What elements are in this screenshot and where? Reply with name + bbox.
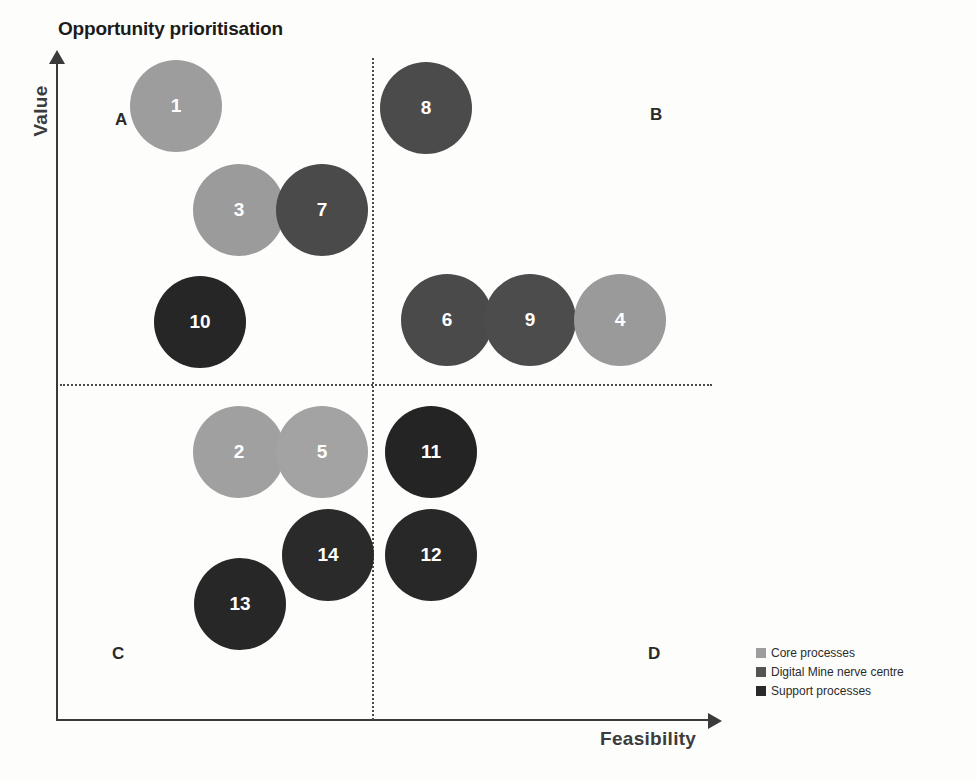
legend-label: Core processes xyxy=(771,646,855,660)
bubble-9[interactable]: 9 xyxy=(484,274,576,366)
quadrant-label-b: B xyxy=(650,105,662,125)
x-axis-label: Feasibility xyxy=(600,728,696,750)
bubble-13[interactable]: 13 xyxy=(194,558,286,650)
x-axis-line xyxy=(56,719,712,721)
x-axis-arrow-icon xyxy=(708,713,722,729)
bubble-7[interactable]: 7 xyxy=(276,164,368,256)
bubble-8[interactable]: 8 xyxy=(380,62,472,154)
quadrant-divider-horizontal xyxy=(60,384,712,386)
quadrant-label-a: A xyxy=(115,110,127,130)
quadrant-label-c: C xyxy=(112,644,124,664)
legend-item[interactable]: Digital Mine nerve centre xyxy=(756,665,904,679)
quadrant-label-d: D xyxy=(648,644,660,664)
legend-label: Support processes xyxy=(771,684,871,698)
bubble-1[interactable]: 1 xyxy=(130,60,222,152)
quadrant-divider-vertical xyxy=(372,58,374,720)
legend-label: Digital Mine nerve centre xyxy=(771,665,904,679)
legend: Core processesDigital Mine nerve centreS… xyxy=(756,646,904,698)
bubble-14[interactable]: 14 xyxy=(282,509,374,601)
bubble-11[interactable]: 11 xyxy=(385,406,477,498)
legend-item[interactable]: Core processes xyxy=(756,646,904,660)
legend-swatch-icon xyxy=(756,648,766,658)
legend-swatch-icon xyxy=(756,667,766,677)
y-axis-line xyxy=(56,62,58,720)
bubble-6[interactable]: 6 xyxy=(401,274,493,366)
opportunity-prioritisation-chart: Opportunity prioritisation Value Feasibi… xyxy=(0,0,977,781)
bubble-4[interactable]: 4 xyxy=(574,274,666,366)
y-axis-label: Value xyxy=(30,66,52,156)
bubble-10[interactable]: 10 xyxy=(154,276,246,368)
bubble-2[interactable]: 2 xyxy=(193,406,285,498)
legend-swatch-icon xyxy=(756,686,766,696)
y-axis-arrow-icon xyxy=(49,50,65,64)
bubble-12[interactable]: 12 xyxy=(385,509,477,601)
bubble-3[interactable]: 3 xyxy=(193,164,285,256)
bubble-5[interactable]: 5 xyxy=(276,406,368,498)
chart-title: Opportunity prioritisation xyxy=(58,18,283,40)
legend-item[interactable]: Support processes xyxy=(756,684,904,698)
